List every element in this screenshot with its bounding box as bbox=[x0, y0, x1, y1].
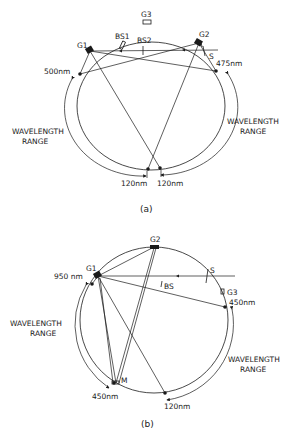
label-bs2-a: BS2 bbox=[137, 36, 152, 45]
panel-a: G3 G1 G2 S BS1 BS2 500nm 475nm 120nm bbox=[12, 10, 279, 214]
point-450nm-left-b bbox=[112, 381, 116, 385]
label-475nm-a: 475nm bbox=[216, 59, 242, 68]
point-475nm-a bbox=[214, 69, 218, 73]
ray-g2-120nm bbox=[148, 43, 199, 169]
range-arc-left-a bbox=[65, 79, 146, 176]
label-range-left-2-b: RANGE bbox=[30, 329, 56, 338]
beam-splitter-bs-b bbox=[161, 281, 162, 287]
point-120nm-left-a bbox=[146, 167, 150, 171]
caption-a: (a) bbox=[140, 204, 153, 214]
label-120nm-right-a: 120nm bbox=[157, 179, 183, 188]
label-120nm-left-a: 120nm bbox=[121, 179, 147, 188]
label-450nm-left-b: 450nm bbox=[92, 392, 118, 401]
spectrometer-diagram: G3 G1 G2 S BS1 BS2 500nm 475nm 120nm bbox=[0, 0, 297, 442]
point-950nm-b bbox=[90, 282, 94, 286]
point-500nm-a bbox=[78, 72, 82, 76]
label-range-left-2-a: RANGE bbox=[22, 137, 48, 146]
label-range-right-1-b: WAVELENGTH bbox=[228, 355, 280, 364]
ray-g1-g2 bbox=[98, 247, 154, 276]
beam-horizontal-a bbox=[92, 50, 218, 51]
label-120nm-b: 120nm bbox=[164, 402, 190, 411]
point-120nm-b bbox=[163, 391, 167, 395]
ray-g1-500nm bbox=[80, 51, 90, 74]
label-range-right-2-a: RANGE bbox=[240, 127, 266, 136]
rowland-circle-a bbox=[77, 42, 225, 170]
label-range-right-2-b: RANGE bbox=[240, 365, 266, 374]
grating-g3-a bbox=[143, 20, 151, 24]
label-range-left-1-b: WAVELENGTH bbox=[10, 319, 62, 328]
point-120nm-right-a bbox=[158, 166, 162, 170]
range-arc-right-b bbox=[167, 309, 233, 400]
label-500nm-a: 500nm bbox=[44, 67, 70, 76]
ray-g2-m-1 bbox=[116, 248, 154, 383]
point-450nm-right-b bbox=[223, 305, 227, 309]
label-g1-b: G1 bbox=[86, 264, 97, 273]
label-range-right-1-a: WAVELENGTH bbox=[227, 117, 279, 126]
label-m-b: M bbox=[121, 376, 127, 385]
label-450nm-right-b: 450nm bbox=[229, 298, 255, 307]
ray-g1-120nm bbox=[90, 51, 160, 168]
panel-b: G2 G1 G3 S BS M 950 nm 450nm bbox=[10, 235, 280, 429]
label-g2-a: G2 bbox=[199, 30, 210, 39]
beam-splitter-bs1-a bbox=[119, 41, 125, 50]
label-bs1-a: BS1 bbox=[115, 32, 130, 41]
ray-g2-500nm bbox=[80, 43, 199, 74]
label-g3-b: G3 bbox=[227, 288, 238, 297]
rowland-circle-b bbox=[80, 247, 228, 393]
label-s-a: S bbox=[209, 52, 214, 61]
ray-g1-m-2 bbox=[100, 278, 113, 383]
range-arc-left-b bbox=[75, 285, 109, 388]
label-g2-b: G2 bbox=[150, 235, 161, 244]
label-bs-b: BS bbox=[164, 282, 174, 291]
label-g1-a: G1 bbox=[77, 41, 88, 50]
label-range-left-1-a: WAVELENGTH bbox=[12, 127, 64, 136]
label-950nm-b: 950 nm bbox=[54, 272, 83, 281]
label-s-b: S bbox=[210, 266, 215, 275]
ray-g2-m-2 bbox=[119, 248, 156, 383]
ray-g1-475nm bbox=[90, 51, 216, 71]
caption-b: (b) bbox=[141, 419, 154, 429]
label-g3-a: G3 bbox=[141, 10, 152, 19]
